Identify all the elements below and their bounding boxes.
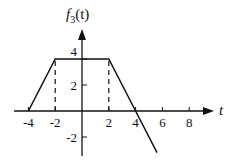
x-tick-label: 8	[186, 115, 193, 130]
series-line	[28, 59, 157, 153]
y-tick-label: -2	[66, 130, 77, 145]
x-axis-label: t	[219, 102, 224, 118]
y-axis-label: f3(t)	[66, 6, 89, 25]
y-tick-label: 2	[71, 78, 78, 93]
x-tick-label: 6	[159, 115, 166, 130]
plot-area: -4-2246842-2	[14, 29, 214, 156]
y-axis-arrow-icon	[78, 29, 86, 40]
x-tick-label: -2	[50, 115, 61, 130]
x-axis-arrow-icon	[203, 107, 214, 115]
x-tick-label: -4	[23, 115, 34, 130]
x-tick-label: 2	[106, 115, 113, 130]
y-tick-label: 4	[71, 44, 78, 59]
chart: -4-2246842-2 f3(t) t	[0, 0, 235, 164]
